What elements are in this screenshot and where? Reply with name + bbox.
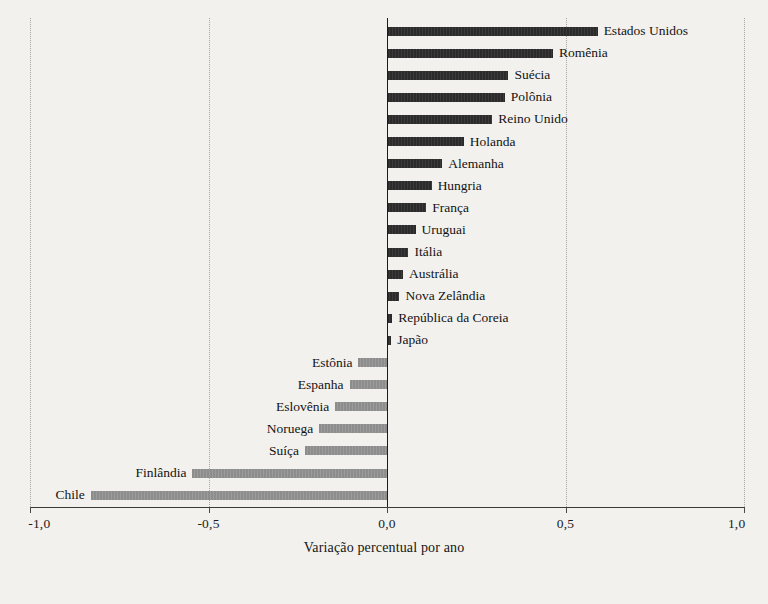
x-tick-label: 0,5 [557,516,574,532]
bar [387,181,432,190]
grid-line [744,18,746,507]
x-tick-mark [209,507,210,513]
bar-category-label: Espanha [298,378,350,392]
bar-category-label: Japão [391,333,428,347]
x-tick-label: 1,0 [728,516,745,532]
bar [335,402,387,411]
bar-category-label: Uruguai [416,223,466,237]
bar-category-label: Itália [408,245,442,259]
x-tick-mark [566,507,567,513]
x-tick-mark [744,507,745,513]
bar [387,248,408,257]
bar [387,93,505,102]
bar-category-label: Noruega [267,422,319,436]
bar [387,203,426,212]
bar [91,491,387,500]
bar [387,137,464,146]
bar-category-label: Holanda [464,135,516,149]
bar [319,424,387,433]
grid-line [30,18,32,507]
bar-category-label: Austrália [403,267,459,281]
bar-category-label: Polônia [505,90,552,104]
bar-category-label: Suíça [269,444,305,458]
plot-area: Estados UnidosRomêniaSuéciaPolôniaReino … [30,18,744,507]
bar-category-label: Eslovênia [276,400,335,414]
bar-chart: Estados UnidosRomêniaSuéciaPolôniaReino … [0,0,768,604]
bar-category-label: França [426,201,469,215]
bar [387,225,416,234]
bar [387,27,598,36]
bar-category-label: Reino Unido [492,112,567,126]
bar-category-label: Romênia [553,46,608,60]
x-tick-mark [387,507,388,513]
bar [387,159,442,168]
bar-category-label: Hungria [432,179,482,193]
x-tick-mark [30,507,31,513]
bar-category-label: Nova Zelândia [399,289,485,303]
bar [387,115,492,124]
x-axis-title: Variação percentual por ano [0,540,768,556]
bar [350,380,387,389]
x-tick-label: -1,0 [28,516,50,532]
zero-line [387,18,388,507]
bar [305,446,387,455]
bar [387,292,399,301]
bar-category-label: República da Coreia [392,311,508,325]
bar-category-label: Finlândia [135,466,192,480]
bar [387,270,403,279]
bar [387,49,553,58]
bar-category-label: Estônia [312,356,359,370]
bar [358,358,387,367]
bar-category-label: Estados Unidos [598,24,688,38]
bar-category-label: Suécia [508,68,550,82]
bar-category-label: Chile [55,488,90,502]
grid-line [209,18,211,507]
x-tick-label: -0,5 [197,516,219,532]
bar [192,469,387,478]
grid-line [566,18,568,507]
bar-category-label: Alemanha [442,157,503,171]
bar [387,71,508,80]
x-tick-label: 0,0 [378,516,395,532]
